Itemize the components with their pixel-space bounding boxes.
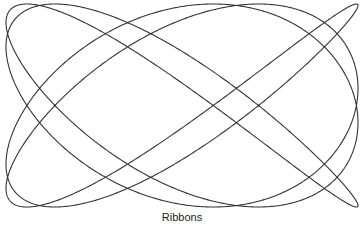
figure-caption: Ribbons — [0, 211, 364, 223]
lissajous-figure — [0, 0, 364, 212]
lissajous-curve — [6, 4, 358, 207]
